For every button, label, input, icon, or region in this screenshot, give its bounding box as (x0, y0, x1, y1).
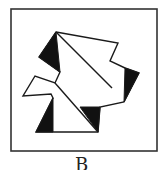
option-label: B (0, 156, 163, 170)
black-triangle (39, 32, 60, 72)
black-triangle (36, 98, 53, 132)
black-triangle (124, 68, 139, 102)
puzzle-figure: B (0, 0, 163, 170)
white-polyhedron-shape (23, 32, 139, 132)
figure-svg (0, 0, 163, 170)
